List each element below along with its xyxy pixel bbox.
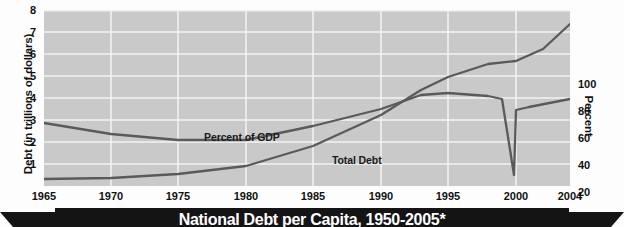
y-axis-right-tick: 40: [578, 159, 608, 171]
chart-figure: Debt (in trillions of dollars) Percent 8…: [0, 0, 624, 227]
x-axis-tick: 1990: [358, 190, 404, 202]
series-label-percent-of-gdp: Percent of GDP: [204, 131, 280, 143]
y-axis-right-tick: 100: [578, 78, 608, 90]
series-label-total-debt: Total Debt: [332, 154, 382, 166]
y-axis-left-tick: 8: [14, 4, 36, 16]
series-line-percent-of-gdp: [44, 93, 570, 175]
x-axis-tick: 2004: [547, 190, 593, 202]
series-line-total-debt: [44, 24, 570, 179]
x-axis-tick: 1975: [155, 190, 201, 202]
banner-title: National Debt per Capita, 1950-2005*: [0, 211, 624, 227]
y-axis-left-tick: 1: [14, 158, 36, 170]
horizontal-gridlines: [44, 11, 570, 164]
title-banner: National Debt per Capita, 1950-2005*: [0, 208, 624, 227]
y-axis-left-tick: 7: [14, 26, 36, 38]
y-axis-left-tick: 2: [14, 136, 36, 148]
y-axis-right-tick: 60: [578, 132, 608, 144]
y-axis-left-tick: 5: [14, 70, 36, 82]
x-axis-tick: 1980: [223, 190, 269, 202]
x-axis-tick: 2000: [493, 190, 539, 202]
y-axis-left-tick: 4: [14, 92, 36, 104]
plot-area: Percent of GDP Total Debt: [44, 10, 570, 186]
y-axis-left-tick: 3: [14, 114, 36, 126]
y-axis-right-tick: 80: [578, 105, 608, 117]
x-axis-tick: 1965: [21, 190, 67, 202]
plot-svg: [44, 10, 570, 186]
y-axis-left-tick: 6: [14, 48, 36, 60]
x-axis-tick: 1970: [88, 190, 134, 202]
x-axis-tick: 1985: [290, 190, 336, 202]
x-axis-tick: 1995: [425, 190, 471, 202]
